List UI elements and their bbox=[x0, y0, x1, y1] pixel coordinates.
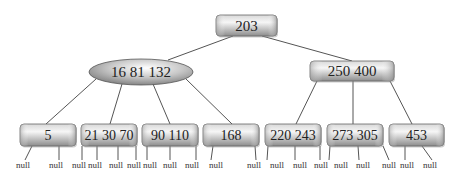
tree-edge bbox=[296, 81, 317, 124]
leaf-node: 5 bbox=[20, 124, 77, 148]
null-label: null bbox=[314, 160, 329, 170]
internal-node-left: 16 81 132 bbox=[89, 59, 193, 85]
null-link bbox=[329, 146, 330, 160]
internal-node-right: 250 400 bbox=[310, 61, 395, 83]
null-label: null bbox=[382, 160, 397, 170]
null-label: null bbox=[270, 160, 285, 170]
node-keys: 273 305 bbox=[332, 128, 378, 143]
leaf-node: 21 30 70 bbox=[81, 124, 138, 148]
node-keys: 220 243 bbox=[270, 128, 316, 143]
null-label: null bbox=[72, 160, 87, 170]
node-keys: 90 110 bbox=[151, 128, 189, 143]
null-label: null bbox=[423, 160, 438, 170]
leaf-node: 273 305 bbox=[327, 124, 384, 148]
null-label: null bbox=[356, 160, 371, 170]
null-link bbox=[422, 146, 432, 160]
tree-edge bbox=[46, 79, 96, 124]
node-keys: 453 bbox=[406, 128, 427, 143]
null-label: null bbox=[49, 160, 64, 170]
leaf-node: 453 bbox=[389, 124, 445, 148]
leaf-node: 90 110 bbox=[142, 124, 199, 148]
null-label: null bbox=[185, 160, 200, 170]
null-label: null bbox=[88, 160, 103, 170]
null-label: null bbox=[334, 160, 349, 170]
null-label: null bbox=[16, 160, 31, 170]
node-keys: 5 bbox=[45, 128, 52, 143]
null-link bbox=[267, 146, 268, 160]
null-link bbox=[25, 146, 32, 160]
tree-edge bbox=[153, 84, 170, 124]
leaf-node: 220 243 bbox=[265, 124, 322, 148]
node-keys: 250 400 bbox=[328, 63, 377, 79]
null-label: null bbox=[209, 160, 224, 170]
null-label: null bbox=[293, 160, 308, 170]
tree-edge bbox=[168, 36, 233, 60]
null-link bbox=[358, 146, 359, 160]
null-label: null bbox=[163, 160, 178, 170]
null-label: null bbox=[143, 160, 158, 170]
b-tree-diagram: nullnullnullnullnullnullnullnullnullnull… bbox=[0, 0, 458, 178]
tree-edge bbox=[186, 79, 232, 124]
null-label: null bbox=[247, 160, 262, 170]
null-link bbox=[255, 146, 256, 160]
leaf-node: 168 bbox=[203, 124, 260, 148]
node-keys: 21 30 70 bbox=[85, 128, 134, 143]
null-label: null bbox=[109, 160, 124, 170]
node-keys: 16 81 132 bbox=[111, 64, 171, 80]
null-label: null bbox=[127, 160, 142, 170]
node-keys: 168 bbox=[221, 128, 242, 143]
tree-edge bbox=[110, 84, 122, 124]
null-link bbox=[211, 146, 213, 160]
node-keys: 203 bbox=[235, 18, 258, 34]
nodes-layer: 20316 81 132250 400521 30 7090 110168220… bbox=[20, 15, 445, 148]
null-label: null bbox=[400, 160, 415, 170]
null-links-layer: nullnullnullnullnullnullnullnullnullnull… bbox=[16, 146, 438, 170]
root-node: 203 bbox=[216, 15, 278, 38]
tree-edge bbox=[262, 36, 352, 61]
null-link bbox=[383, 146, 389, 160]
tree-edge bbox=[390, 81, 412, 124]
